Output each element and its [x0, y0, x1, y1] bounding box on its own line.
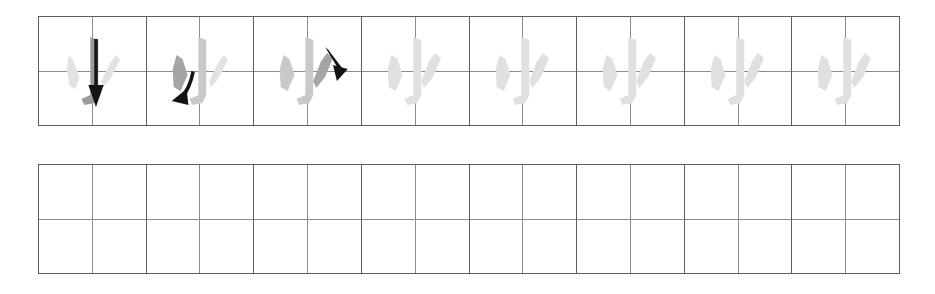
character-art-small-stroke-2	[147, 17, 254, 125]
character-art-small-stroke-3	[254, 17, 361, 125]
blank-practice-row	[38, 164, 900, 274]
character-art-small-ghost	[470, 17, 577, 125]
grid-cell-trace-4[interactable]	[362, 17, 470, 125]
grid-cell-demo-2[interactable]	[147, 17, 255, 125]
grid-cell-blank-8[interactable]	[792, 165, 899, 273]
cell-center-horizontal-guide	[577, 219, 684, 220]
cell-center-horizontal-guide	[254, 219, 361, 220]
grid-cell-blank-1[interactable]	[39, 165, 147, 273]
grid-cell-blank-6[interactable]	[577, 165, 685, 273]
character-art-small-ghost	[577, 17, 684, 125]
grid-cell-blank-3[interactable]	[254, 165, 362, 273]
cell-center-horizontal-guide	[362, 219, 469, 220]
grid-cell-blank-2[interactable]	[147, 165, 255, 273]
cell-center-horizontal-guide	[39, 219, 146, 220]
cell-center-horizontal-guide	[470, 219, 577, 220]
cell-center-horizontal-guide	[147, 219, 254, 220]
grid-cell-blank-7[interactable]	[685, 165, 793, 273]
grid-cell-blank-5[interactable]	[470, 165, 578, 273]
character-art-small-ghost	[792, 17, 899, 125]
cell-center-horizontal-guide	[792, 219, 899, 220]
grid-cell-demo-3[interactable]	[254, 17, 362, 125]
grid-cell-trace-6[interactable]	[577, 17, 685, 125]
character-art-small-ghost	[685, 17, 792, 125]
character-art-small-ghost	[362, 17, 469, 125]
grid-cell-demo-1[interactable]	[39, 17, 147, 125]
grid-cell-trace-5[interactable]	[470, 17, 578, 125]
cell-center-horizontal-guide	[685, 219, 792, 220]
character-practice-worksheet	[0, 0, 935, 294]
character-art-small-stroke-1	[39, 17, 146, 125]
grid-cell-blank-4[interactable]	[362, 165, 470, 273]
grid-cell-trace-8[interactable]	[792, 17, 899, 125]
stroke-order-demo-row	[38, 16, 900, 126]
grid-cell-trace-7[interactable]	[685, 17, 793, 125]
